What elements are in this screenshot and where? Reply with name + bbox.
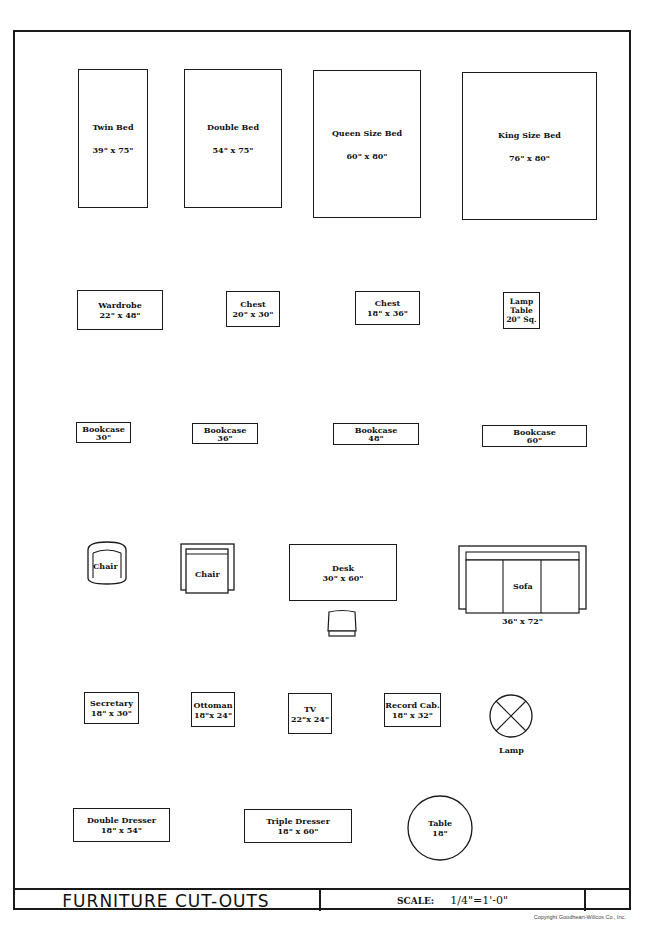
cutout-label: Record Cab. (385, 700, 439, 710)
cutout-label: Desk (332, 563, 354, 573)
cutout-label: Triple Dresser (266, 816, 330, 826)
cutout-label: Chest (375, 298, 400, 308)
cutout-label: Twin Bed (92, 122, 133, 132)
title-block-divider (584, 890, 586, 911)
cutout-label: Secretary (90, 698, 133, 708)
cutout-label: Chest (240, 299, 265, 309)
cutout-dimensions: 36" (217, 434, 232, 442)
wardrobe-cutout[interactable]: Wardrobe 22" x 48" (77, 290, 163, 330)
desk-chair-cutout[interactable] (325, 609, 359, 639)
bookcase-36-cutout[interactable]: Bookcase 36" (192, 423, 258, 444)
desk-cutout[interactable]: Desk 30" x 60" (289, 544, 397, 601)
cutout-label: King Size Bed (498, 130, 561, 140)
cutout-label: Ottoman (193, 700, 232, 710)
cutout-dimensions: 54" x 75" (213, 145, 254, 155)
cutout-dimensions: 18" x 32" (392, 710, 433, 720)
queen-bed-cutout[interactable]: Queen Size Bed 60" x 80" (313, 70, 421, 218)
chest-18x36-cutout[interactable]: Chest 18" x 36" (355, 291, 420, 325)
cutout-dimensions: 18"x 24" (194, 710, 232, 720)
bookcase-48-cutout[interactable]: Bookcase 48" (333, 423, 419, 445)
cutout-dimensions: 48" (368, 434, 383, 442)
sofa-label: Sofa (513, 581, 533, 591)
cutout-dimensions: 60" (527, 436, 542, 444)
title-block: FURNITURE CUT-OUTS SCALE: 1/4"=1'-0" (13, 888, 631, 911)
cutout-label: Wardrobe (98, 300, 142, 310)
cutout-label: Queen Size Bed (332, 128, 402, 138)
twin-bed-cutout[interactable]: Twin Bed 39" x 75" (78, 69, 148, 208)
cutout-dimensions: 18" x 30" (91, 708, 132, 718)
cutout-label: Lamp Table (507, 297, 537, 315)
secretary-cutout[interactable]: Secretary 18" x 30" (84, 692, 139, 724)
lamp-table-cutout[interactable]: Lamp Table 20" Sq. (503, 292, 540, 329)
lamp-label: Lamp (499, 745, 524, 755)
cutout-dimensions: 39" x 75" (93, 145, 134, 155)
cutout-dimensions: 18" x 36" (367, 308, 408, 318)
scale-cell: SCALE: 1/4"=1'-0" (321, 890, 584, 911)
record-cabinet-cutout[interactable]: Record Cab. 18" x 32" (384, 693, 441, 727)
cutout-dimensions: 20" Sq. (506, 315, 536, 324)
lamp-cutout[interactable] (489, 694, 533, 738)
triple-dresser-cutout[interactable]: Triple Dresser 18" x 60" (244, 809, 352, 843)
copyright-notice: Copyright Goodheart-Willcox Co., Inc. (534, 914, 626, 920)
cutout-label: Double Dresser (87, 815, 156, 825)
sofa-cutout[interactable] (458, 545, 588, 615)
armchair-label: Chair (93, 561, 118, 571)
cutout-label: TV (304, 704, 316, 714)
king-bed-cutout[interactable]: King Size Bed 76" x 80" (462, 72, 597, 220)
cutout-dimensions: 22"x 24" (291, 714, 329, 724)
square-chair-label: Chair (195, 569, 220, 579)
bookcase-60-cutout[interactable]: Bookcase 60" (482, 425, 587, 447)
cutout-dimensions: 20" x 30" (233, 309, 274, 319)
desk-chair-seat (328, 611, 356, 632)
cutout-dimensions: 30" (96, 433, 111, 441)
double-bed-cutout[interactable]: Double Bed 54" x 75" (184, 69, 282, 208)
double-dresser-cutout[interactable]: Double Dresser 18" x 54" (73, 808, 170, 842)
ottoman-cutout[interactable]: Ottoman 18"x 24" (191, 692, 235, 727)
round-table-label: Table 18" (407, 818, 473, 838)
sofa-dimensions: 36" x 72" (502, 616, 543, 626)
cutout-dimensions: 18" x 60" (278, 826, 319, 836)
cutout-dimensions: 18" (407, 828, 473, 838)
cutout-dimensions: 18" x 54" (101, 825, 142, 835)
cutout-dimensions: 30" x 60" (323, 573, 364, 583)
cutout-dimensions: 22" x 48" (100, 310, 141, 320)
tv-cutout[interactable]: TV 22"x 24" (288, 693, 332, 734)
sofa-back (466, 552, 579, 560)
cutout-dimensions: 60" x 80" (347, 151, 388, 161)
sheet-title: FURNITURE CUT-OUTS (13, 890, 319, 911)
chest-20x30-cutout[interactable]: Chest 20" x 30" (226, 291, 280, 327)
scale-label: SCALE: (397, 896, 434, 906)
cutout-label: Table (407, 818, 473, 828)
bookcase-30-cutout[interactable]: Bookcase 30" (76, 422, 131, 443)
desk-chair-back (329, 631, 355, 636)
cutout-label: Double Bed (207, 122, 259, 132)
cutout-dimensions: 76" x 80" (509, 153, 550, 163)
scale-value: 1/4"=1'-0" (450, 894, 508, 907)
